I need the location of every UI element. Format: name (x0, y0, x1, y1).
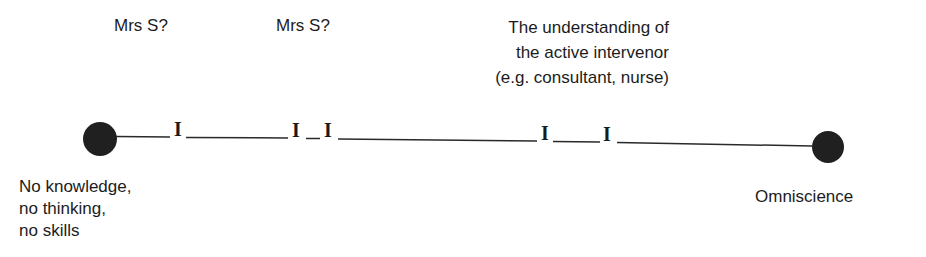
left-endpoint-dot (83, 122, 117, 156)
top-label-active-intervenor: The understanding of the active interven… (495, 15, 669, 90)
continuum-diagram: I I I I I (0, 0, 926, 257)
right-endpoint-label: Omniscience (755, 186, 853, 207)
marker-2: I (292, 119, 300, 141)
top-label-mrs-s-2: Mrs S? (276, 15, 330, 36)
marker-3: I (324, 119, 332, 141)
right-endpoint-dot (812, 131, 844, 163)
continuum-line (116, 137, 812, 147)
marker-4: I (541, 122, 549, 144)
left-endpoint-label: No knowledge, no thinking, no skills (19, 176, 131, 242)
marker-5: I (603, 123, 611, 145)
marker-1: I (174, 118, 182, 140)
top-label-mrs-s-1: Mrs S? (114, 15, 168, 36)
